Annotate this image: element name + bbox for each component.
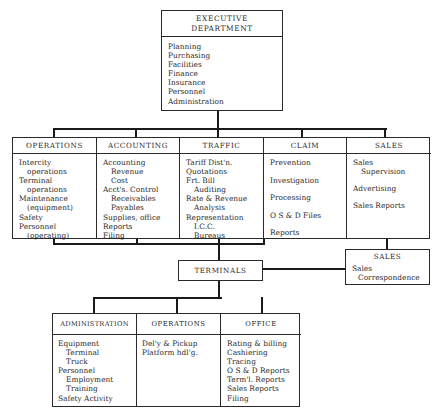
list-item: Equipment xyxy=(58,339,136,348)
department-sales: SALES Sales Supervision Advertising Sale… xyxy=(347,138,431,238)
executive-department-header: EXECUTIVE DEPARTMENT xyxy=(162,11,282,37)
list-item: (equipment) xyxy=(19,203,96,212)
terminal-unit-items: Rating & billing Cashiering Tracing O S … xyxy=(221,335,301,403)
list-item: Finance xyxy=(168,69,282,78)
list-item: operations xyxy=(19,167,96,176)
list-item: Intercity xyxy=(19,158,96,167)
list-item: O S & D Reports xyxy=(227,366,301,375)
terminals-box: TERMINALS xyxy=(178,260,263,281)
department-items: Sales Supervision Advertising Sales Repo… xyxy=(347,154,431,210)
connector-terminals-down xyxy=(218,280,220,298)
list-item: O S & D Files xyxy=(270,211,346,220)
connector-bottom-bar xyxy=(53,243,265,245)
list-item: Del'y & Pickup xyxy=(142,339,220,348)
list-item: Acct's. Control xyxy=(103,185,179,194)
terminal-unit-operations: OPERATIONS Del'y & Pickup Platform hdl'g… xyxy=(137,314,221,406)
list-item: Personnel xyxy=(58,366,136,375)
list-item: Administration xyxy=(168,97,282,106)
list-item: Prevention xyxy=(270,158,346,167)
terminal-unit-office: OFFICE Rating & billing Cashiering Traci… xyxy=(221,314,301,406)
connector-exec-down xyxy=(217,110,219,129)
terminal-unit-header: OFFICE xyxy=(221,314,301,335)
list-item: Personnel xyxy=(168,87,282,96)
department-accounting: ACCOUNTING Accounting Revenue Cost Acct'… xyxy=(97,138,180,238)
list-item: Facilities xyxy=(168,60,282,69)
executive-department-box: EXECUTIVE DEPARTMENT Planning Purchasing… xyxy=(161,10,283,111)
connector-drop-claim xyxy=(301,128,303,137)
connector-traffic-to-terminals xyxy=(218,238,220,260)
list-item: Rating & billing xyxy=(227,339,301,348)
department-items: Prevention Investigation Processing O S … xyxy=(264,154,346,237)
list-item: Quotations xyxy=(186,167,263,176)
terminal-unit-header: OPERATIONS xyxy=(137,314,220,335)
terminal-unit-administration: ADMINISTRATION Equipment Terminal Truck … xyxy=(53,314,137,406)
department-items: Tariff Dist'n. Quotations Frt. Bill Audi… xyxy=(180,154,263,240)
executive-title-line1: EXECUTIVE xyxy=(196,14,248,24)
terminal-unit-items: Del'y & Pickup Platform hdl'g. xyxy=(137,335,220,357)
list-item: Supervision xyxy=(353,167,431,176)
list-item: Auditing xyxy=(186,185,263,194)
list-item: Terminal xyxy=(58,348,136,357)
department-header: CLAIM xyxy=(264,138,346,154)
list-item: Filing xyxy=(227,394,301,403)
terminal-unit-header: ADMINISTRATION xyxy=(53,314,136,335)
list-item: Cashiering xyxy=(227,348,301,357)
department-header: OPERATIONS xyxy=(13,138,96,154)
connector-drop-accounting xyxy=(135,128,137,137)
terminals-title: TERMINALS xyxy=(194,266,246,275)
list-item: (operating) xyxy=(19,231,96,240)
list-item: Analysis xyxy=(186,203,263,212)
list-item: Employment xyxy=(58,375,136,384)
sales-correspondence-title: SALES xyxy=(346,250,429,261)
sales-correspondence-box: SALES Sales Correspondence xyxy=(345,249,430,285)
connector-drop-admin xyxy=(93,297,95,313)
connector-drop-term-operations xyxy=(176,297,178,313)
connector-up-claim xyxy=(263,238,265,245)
departments-row: OPERATIONS Intercity operations Terminal… xyxy=(12,137,430,239)
list-item: Planning xyxy=(168,42,282,51)
sales-correspondence-line1: Sales xyxy=(346,261,429,273)
list-item: Sales Reports xyxy=(353,201,431,210)
department-header: TRAFFIC xyxy=(180,138,263,154)
list-item: Term'l. Reports xyxy=(227,375,301,384)
terminal-unit-items: Equipment Terminal Truck Personnel Emplo… xyxy=(53,335,136,403)
list-item: Sales Reports xyxy=(227,384,301,393)
connector-drop-office xyxy=(261,297,263,313)
executive-items: Planning Purchasing Facilities Finance I… xyxy=(162,37,282,106)
list-item: operations xyxy=(19,185,96,194)
list-item: Accounting xyxy=(103,158,179,167)
list-item: Reports xyxy=(103,222,179,231)
list-item: Frt. Bill xyxy=(186,176,263,185)
list-item: I.C.C. xyxy=(186,222,263,231)
connector-lower-bar xyxy=(93,297,222,299)
list-item: Supplies, office xyxy=(103,213,179,222)
connector-top-bar xyxy=(53,128,387,130)
connector-drop-operations xyxy=(53,128,55,137)
list-item: Tariff Dist'n. xyxy=(186,158,263,167)
executive-title-line2: DEPARTMENT xyxy=(191,24,253,34)
list-item: Truck xyxy=(58,357,136,366)
department-items: Accounting Revenue Cost Acct's. Control … xyxy=(97,154,179,240)
list-item: Terminal xyxy=(19,176,96,185)
connector-drop-sales xyxy=(384,128,386,137)
sales-correspondence-line2: Correspondence xyxy=(346,273,429,282)
list-item: Filing xyxy=(103,231,179,240)
connector-drop-traffic xyxy=(217,128,219,137)
list-item: Investigation xyxy=(270,176,346,185)
list-item: Personnel xyxy=(19,222,96,231)
list-item: Cost xyxy=(103,176,179,185)
list-item: Safety xyxy=(19,213,96,222)
department-header: ACCOUNTING xyxy=(97,138,179,154)
list-item: Insurance xyxy=(168,78,282,87)
list-item: Training xyxy=(58,384,136,393)
department-operations: OPERATIONS Intercity operations Terminal… xyxy=(13,138,97,238)
list-item: Rate & Revenue xyxy=(186,194,263,203)
list-item: Safety Activity xyxy=(58,394,136,403)
list-item: Bureaus xyxy=(186,231,263,240)
connector-terminals-to-salescorr xyxy=(262,268,346,270)
department-items: Intercity operations Terminal operations… xyxy=(13,154,96,240)
department-claim: CLAIM Prevention Investigation Processin… xyxy=(264,138,347,238)
terminal-units-row: ADMINISTRATION Equipment Terminal Truck … xyxy=(52,313,300,407)
list-item: Sales xyxy=(353,158,431,167)
list-item: Revenue xyxy=(103,167,179,176)
